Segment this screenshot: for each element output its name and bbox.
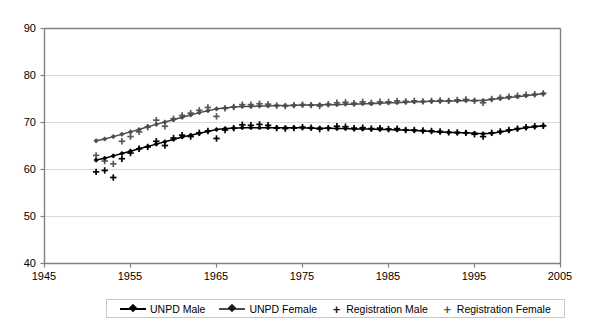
chart-container: 90 80 70 60 50 40 1945 1955 1965 1975 19… bbox=[0, 0, 604, 336]
legend-item-registration-female: + Registration Female bbox=[442, 303, 551, 315]
legend-label-registration-male: Registration Male bbox=[346, 303, 428, 315]
legend-item-registration-male: + Registration Male bbox=[331, 303, 428, 315]
legend-item-unpd-male: UNPD Male bbox=[120, 303, 205, 315]
legend-label-unpd-male: UNPD Male bbox=[150, 303, 205, 315]
legend-label-registration-female: Registration Female bbox=[457, 303, 551, 315]
line-diamond-marker-icon bbox=[219, 303, 245, 314]
legend-item-unpd-female: UNPD Female bbox=[219, 303, 317, 315]
legend-label-unpd-female: UNPD Female bbox=[249, 303, 317, 315]
plus-marker-icon: + bbox=[331, 303, 342, 314]
chart-legend: UNPD Male UNPD Female + Registration Mal… bbox=[106, 299, 565, 318]
plot-area bbox=[0, 0, 604, 336]
plus-marker-icon: + bbox=[442, 303, 453, 314]
line-diamond-marker-icon bbox=[120, 303, 146, 314]
